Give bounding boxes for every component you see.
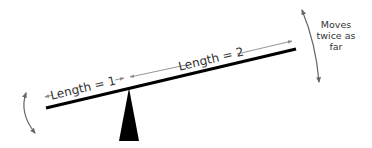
short-end-motion-arc-icon xyxy=(24,93,35,133)
short-arm-dimension-arrow-right xyxy=(115,78,124,80)
long-arm-dimension-arrow-left xyxy=(130,65,186,77)
lever-bar xyxy=(46,49,296,108)
lever-diagram: Length = 1 Length = 2 Moves twice as far xyxy=(0,0,372,148)
motion-note-line-3: far xyxy=(329,41,342,52)
fulcrum-triangle-icon xyxy=(119,88,139,141)
motion-note-line-1: Moves xyxy=(321,19,351,30)
motion-note-line-2: twice as xyxy=(317,30,356,41)
long-end-motion-arc-icon xyxy=(302,10,319,82)
